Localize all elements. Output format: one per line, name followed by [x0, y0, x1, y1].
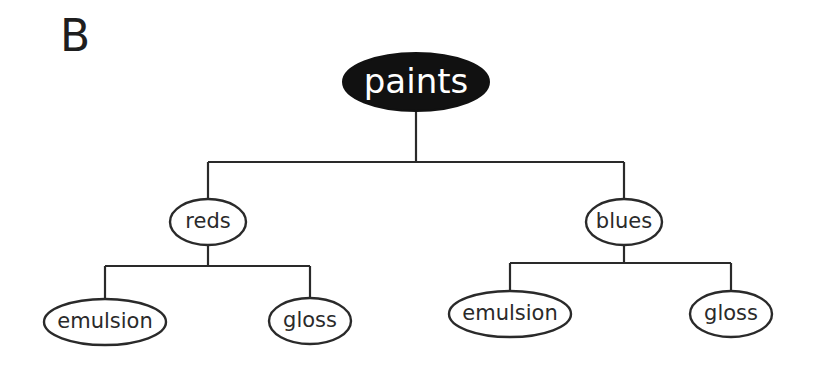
node-reds-label: reds	[185, 209, 230, 233]
tree-nodes: paintsredsemulsionglossbluesemulsionglos…	[44, 53, 772, 345]
node-reds: reds	[170, 199, 246, 245]
node-blues: blues	[586, 199, 662, 245]
node-paints: paints	[343, 53, 489, 111]
node-blues-label: blues	[596, 209, 652, 233]
node-reds-emulsion: emulsion	[44, 299, 166, 345]
node-blues-gloss: gloss	[690, 291, 772, 337]
node-blues-gloss-label: gloss	[704, 301, 758, 325]
node-blues-emulsion-label: emulsion	[462, 301, 557, 325]
node-blues-emulsion: emulsion	[449, 291, 571, 337]
node-paints-label: paints	[364, 61, 468, 101]
node-reds-emulsion-label: emulsion	[57, 309, 152, 333]
node-reds-gloss: gloss	[269, 298, 351, 344]
tree-diagram: paintsredsemulsionglossbluesemulsionglos…	[0, 0, 813, 366]
node-reds-gloss-label: gloss	[283, 308, 337, 332]
